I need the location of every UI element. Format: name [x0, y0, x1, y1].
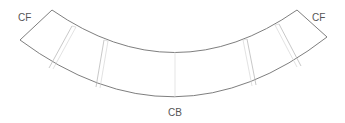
- left-divider-2: [96, 40, 108, 88]
- outer-arc: [52, 10, 297, 53]
- label-center-cb: CB: [168, 107, 182, 118]
- label-right-cf: CF: [312, 12, 325, 23]
- right-divider-2: [275, 24, 301, 67]
- right-divider-1: [243, 39, 256, 86]
- inner-arc: [20, 37, 327, 97]
- curved-layout-diagram: CF CF CB: [0, 0, 345, 123]
- left-divider-1: [49, 26, 76, 69]
- label-left-cf: CF: [18, 12, 31, 23]
